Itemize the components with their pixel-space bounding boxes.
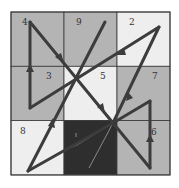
- cell-number: 6: [151, 127, 157, 137]
- cell-number: 7: [152, 71, 158, 81]
- cell-number: 4: [22, 17, 28, 27]
- cell-number: 9: [76, 17, 82, 27]
- cell-number: 8: [20, 126, 26, 136]
- cell-number: 5: [100, 71, 106, 81]
- cell-number: 3: [46, 71, 52, 81]
- grid-cell-3: [11, 66, 64, 120]
- cell-number: 2: [129, 17, 135, 27]
- grid-cell-6: [117, 121, 170, 175]
- grid-cell-7: [117, 66, 170, 120]
- magic-square-diagram: 492357816: [0, 0, 179, 188]
- grid-cell-4: [11, 12, 64, 66]
